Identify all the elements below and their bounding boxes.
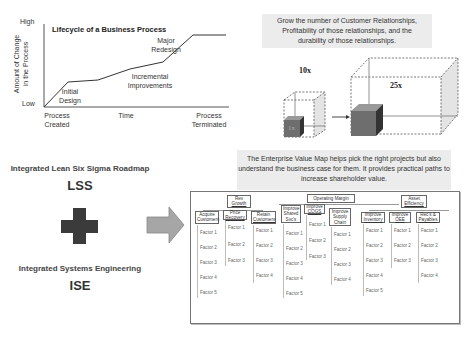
factor: Factor 5 xyxy=(200,290,217,295)
group-rev-growth: Rev Growth xyxy=(227,195,251,208)
cube-diagram xyxy=(270,50,469,150)
lss-subtitle: Integrated Lean Six Sigma Roadmap xyxy=(0,164,160,173)
growth-callout: Grow the number of Customer Relationship… xyxy=(262,14,432,48)
factor: Factor 2 xyxy=(334,247,351,252)
factor: Factor 2 xyxy=(421,243,438,248)
factor: Factor 2 xyxy=(256,243,273,248)
factor: Factor 3 xyxy=(256,258,273,263)
tree-line xyxy=(391,224,392,268)
factor: Factor 3 xyxy=(228,258,245,263)
tree-line xyxy=(363,224,364,296)
factor: Factor 2 xyxy=(394,243,411,248)
factor: Factor 4 xyxy=(200,275,217,280)
factor: Factor 4 xyxy=(256,273,273,278)
enterprise-value-map: Rev Growth Operating Margin Asset Effici… xyxy=(190,191,460,324)
tree-line xyxy=(253,225,254,283)
right-arrow-icon xyxy=(146,206,186,246)
col-improve-cogs: ImproveCOGS xyxy=(304,204,325,214)
annotation-initial-design: Initial Design xyxy=(55,87,85,105)
tree-line xyxy=(418,224,419,283)
factor: Factor 1 xyxy=(394,228,411,233)
tree-line xyxy=(225,221,226,266)
col-retain-customers: RetainCustomers xyxy=(251,211,276,224)
col-improve-inventory: ImproveInventory xyxy=(361,212,385,223)
factor: Factor 3 xyxy=(334,262,351,267)
ise-subtitle: Integrated Systems Engineering xyxy=(0,264,160,273)
y-low-label: Low xyxy=(22,99,35,108)
connector xyxy=(369,210,449,211)
factor: Factor 2 xyxy=(366,243,383,248)
group-asset-efficiency: Asset Efficiency xyxy=(401,195,427,208)
factor: Factor 1 xyxy=(421,228,438,233)
group-operating-margin: Operating Margin xyxy=(307,194,355,203)
y-axis-label: Amount of Change in the Process xyxy=(12,29,30,99)
x-end-label: Process Terminated xyxy=(188,111,230,129)
factor: Factor 2 xyxy=(228,242,245,247)
lss-abbrev: LSS xyxy=(0,178,160,193)
col-recs-payables: Rec's &Payables xyxy=(416,212,440,223)
col-acquire-customers: AcquireCustomers xyxy=(195,211,219,224)
factor: Factor 4 xyxy=(334,277,351,282)
ise-abbrev: ISE xyxy=(0,278,160,293)
factor: Factor 2 xyxy=(200,245,217,250)
tree-line xyxy=(331,227,332,285)
label-10x: 10x xyxy=(299,66,311,75)
factor: Factor 3 xyxy=(394,258,411,263)
x-start-label: Process Created xyxy=(40,111,74,129)
label-1x: 1x xyxy=(288,124,295,132)
factor: Factor 2 xyxy=(286,246,303,251)
col-improve-supply-chain: ImproveSupplyChain xyxy=(329,208,351,226)
factor: Factor 1 xyxy=(200,230,217,235)
annotation-major-redesign: Major Redesign xyxy=(146,36,186,54)
factor: Factor 2 xyxy=(309,238,326,243)
factor: Factor 1 xyxy=(286,231,303,236)
tree-line xyxy=(197,225,198,298)
tree-line xyxy=(306,215,307,260)
factor: Factor 5 xyxy=(366,288,383,293)
col-improve-oee: ImproveOEE xyxy=(389,212,411,223)
factor: Factor 3 xyxy=(286,261,303,266)
value-map-callout: The Enterprise Value Map helps pick the … xyxy=(237,150,451,190)
factor: Factor 4 xyxy=(421,273,438,278)
col-improve-shared-svcs: ImproveSharedSvc's xyxy=(281,205,301,223)
label-25x: 25x xyxy=(390,81,402,90)
factor: Factor 3 xyxy=(421,258,438,263)
factor: Factor 5 xyxy=(286,291,303,296)
plus-icon-bar xyxy=(61,220,98,233)
factor: Factor 1 xyxy=(228,225,245,230)
factor: Factor 4 xyxy=(286,276,303,281)
factor: Factor 1 xyxy=(256,228,273,233)
factor: Factor 1 xyxy=(309,222,326,227)
col-price-recovery: PriceRecovery xyxy=(223,210,247,220)
y-high-label: High xyxy=(20,17,34,26)
factor: Factor 1 xyxy=(334,232,351,237)
x-time-label: Time xyxy=(116,111,136,120)
annotation-incremental: Incremental Improvements xyxy=(120,72,180,90)
factor: Factor 3 xyxy=(366,258,383,263)
lifecycle-title: Lifecycle of a Business Process xyxy=(52,25,166,34)
factor: Factor 3 xyxy=(309,254,326,259)
tree-line xyxy=(283,224,284,298)
factor: Factor 4 xyxy=(366,273,383,278)
factor: Factor 1 xyxy=(366,228,383,233)
factor: Factor 3 xyxy=(200,260,217,265)
